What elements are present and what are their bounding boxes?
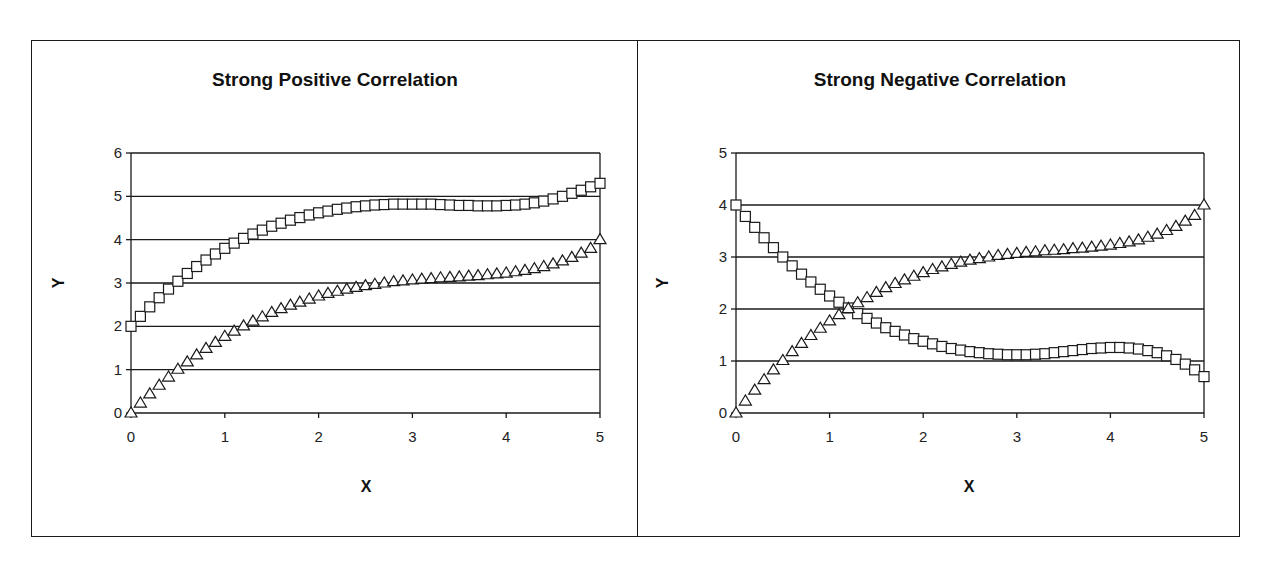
square-marker xyxy=(332,204,342,214)
y-tick-label: 5 xyxy=(719,144,727,161)
square-marker xyxy=(909,334,919,344)
square-marker xyxy=(511,200,521,210)
square-marker xyxy=(853,309,863,319)
square-marker xyxy=(778,252,788,262)
x-tick-label: 0 xyxy=(127,428,135,445)
square-marker xyxy=(956,345,966,355)
square-marker xyxy=(257,225,267,235)
square-marker xyxy=(890,326,900,336)
x-tick-labels: 012345 xyxy=(127,428,604,445)
square-marker xyxy=(1162,351,1172,361)
square-marker xyxy=(1002,350,1012,360)
square-marker xyxy=(806,277,816,287)
triangle-marker xyxy=(528,263,540,273)
square-marker xyxy=(285,215,295,225)
square-marker xyxy=(473,201,483,211)
x-tick-label: 1 xyxy=(221,428,229,445)
square-marker xyxy=(417,199,427,209)
square-marker xyxy=(529,198,539,208)
square-marker xyxy=(595,178,605,188)
square-marker xyxy=(314,208,324,218)
triangle-marker xyxy=(1179,215,1191,225)
x-tick-label: 5 xyxy=(1200,428,1208,445)
square-marker xyxy=(1031,349,1041,359)
square-marker xyxy=(361,201,371,211)
square-marker xyxy=(740,211,750,221)
axes xyxy=(731,153,1204,418)
chart-positive-correlation: Strong Positive Correlation 0123456 0123… xyxy=(50,69,606,495)
square-marker xyxy=(135,311,145,321)
square-marker xyxy=(567,188,577,198)
y-axis-label: Y xyxy=(654,277,671,288)
square-marker xyxy=(576,185,586,195)
square-marker xyxy=(1171,354,1181,364)
square-marker xyxy=(797,269,807,279)
square-marker xyxy=(154,293,164,303)
square-marker xyxy=(825,291,835,301)
square-marker xyxy=(918,336,928,346)
series-squares xyxy=(731,200,1209,382)
square-marker xyxy=(548,194,558,204)
y-tick-label: 1 xyxy=(719,352,727,369)
square-marker xyxy=(501,200,511,210)
square-marker xyxy=(834,297,844,307)
square-marker xyxy=(1077,345,1087,355)
square-marker xyxy=(768,243,778,253)
y-tick-label: 2 xyxy=(114,317,122,334)
square-marker xyxy=(389,199,399,209)
square-marker xyxy=(1133,344,1143,354)
square-marker xyxy=(192,262,202,272)
square-marker xyxy=(164,284,174,294)
square-marker xyxy=(928,339,938,349)
square-marker xyxy=(248,229,258,239)
square-marker xyxy=(862,313,872,323)
triangle-marker xyxy=(322,287,334,297)
x-tick-label: 5 xyxy=(596,428,604,445)
square-marker xyxy=(946,344,956,354)
square-marker xyxy=(436,200,446,210)
square-marker xyxy=(379,200,389,210)
square-marker xyxy=(229,238,239,248)
square-marker xyxy=(276,218,286,228)
square-marker xyxy=(965,347,975,357)
square-marker xyxy=(426,199,436,209)
square-marker xyxy=(815,284,825,294)
square-marker xyxy=(750,222,760,232)
y-tick-label: 4 xyxy=(719,196,727,213)
square-marker xyxy=(520,199,530,209)
square-marker xyxy=(239,233,249,243)
x-axis-label: X xyxy=(361,478,372,495)
square-marker xyxy=(1190,365,1200,375)
square-marker xyxy=(182,268,192,278)
square-marker xyxy=(1049,348,1059,358)
x-tick-label: 4 xyxy=(1106,428,1114,445)
x-tick-label: 4 xyxy=(502,428,510,445)
square-marker xyxy=(342,203,352,213)
square-marker xyxy=(1199,372,1209,382)
square-marker xyxy=(201,255,211,265)
triangle-marker xyxy=(594,234,606,244)
square-marker xyxy=(731,200,741,210)
square-marker xyxy=(974,348,984,358)
triangle-marker xyxy=(331,285,343,295)
square-marker xyxy=(1152,348,1162,358)
x-tick-label: 3 xyxy=(408,428,416,445)
y-tick-label: 2 xyxy=(719,300,727,317)
y-tick-labels: 012345 xyxy=(719,144,727,421)
triangle-marker xyxy=(1189,209,1201,219)
square-marker xyxy=(126,321,136,331)
square-marker xyxy=(937,341,947,351)
square-marker xyxy=(1087,344,1097,354)
chart-title: Strong Positive Correlation xyxy=(212,69,458,90)
square-marker xyxy=(787,261,797,271)
square-marker xyxy=(1143,346,1153,356)
triangle-marker xyxy=(758,374,770,384)
y-tick-label: 4 xyxy=(114,231,122,248)
y-tick-label: 5 xyxy=(114,187,122,204)
square-marker xyxy=(539,196,549,206)
chart-negative-correlation: Strong Negative Correlation 012345 01234… xyxy=(654,69,1210,495)
y-tick-label: 0 xyxy=(114,404,122,421)
x-tick-label: 0 xyxy=(732,428,740,445)
square-marker xyxy=(1105,342,1115,352)
data-series xyxy=(125,178,606,417)
